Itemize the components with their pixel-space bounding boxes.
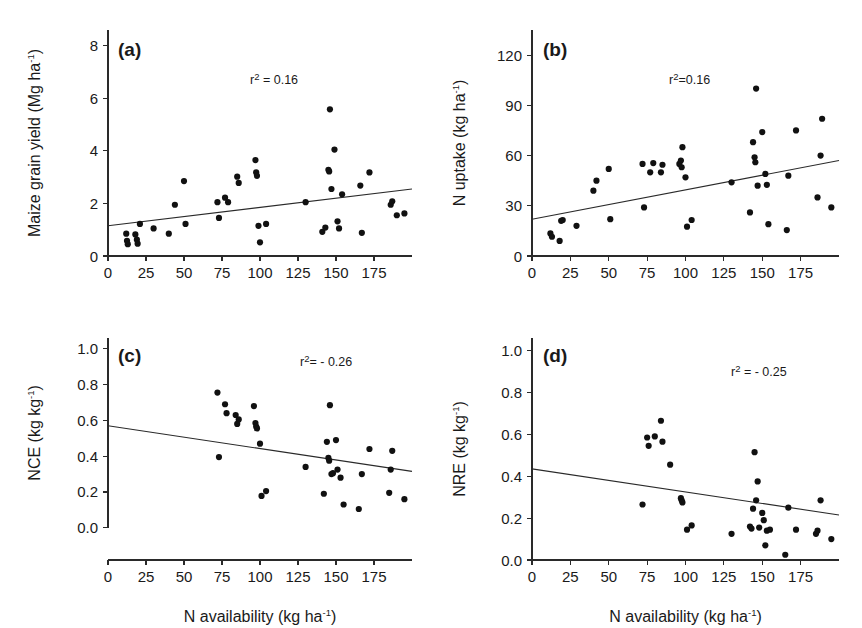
data-point [762,171,768,177]
x-tick-label: 125 [285,568,310,585]
data-point [254,425,260,431]
data-point [334,466,340,472]
data-point [263,488,269,494]
data-point [258,493,264,499]
data-point [606,166,612,172]
data-point [255,223,261,229]
x-tick-label: 100 [247,264,272,281]
data-point [750,139,756,145]
x-axis-title-close: ) [756,608,761,625]
data-point [341,501,347,507]
figure-container: 024680255075100125150175(a)r2 = 0.16Maiz… [0,0,862,628]
r2-value: =0.16 [678,73,710,87]
panel-label: (d) [543,345,567,366]
data-point [257,239,263,245]
data-point [388,466,394,472]
data-point [689,522,695,528]
regression-line [532,469,839,515]
data-point [181,178,187,184]
y-tick-label: 0.6 [77,412,98,429]
data-point [216,215,222,221]
y-axis-title-main: Maize grain yield (Mg ha [26,63,43,237]
x-tick-label: 0 [528,568,536,585]
data-point [652,433,658,439]
panel-b-plot-area: 03060901200255075100125150175(b)r2=0.16N… [450,30,839,281]
y-tick-label: 0.6 [501,426,522,443]
y-axis-title-close: ) [451,401,468,406]
data-point [753,497,759,503]
x-axis-title-main: N availability (kg ha [609,608,748,625]
data-point [263,221,269,227]
data-point [366,169,372,175]
data-point [748,525,754,531]
data-point [254,173,260,179]
data-point [257,441,263,447]
y-tick-label: 0.4 [77,448,98,465]
data-point [684,224,690,230]
data-point [394,212,400,218]
data-point [123,231,129,237]
x-tick-label: 150 [323,264,348,281]
data-point [549,234,555,240]
data-point [137,221,143,227]
data-point [334,218,340,224]
x-tick-label: 50 [176,264,193,281]
data-point [125,241,131,247]
y-axis-title-close: ) [26,49,43,54]
data-point [132,231,138,237]
data-point [337,475,343,481]
data-point [389,198,395,204]
x-axis-title-exponent: -1 [322,607,330,618]
x-tick-label: 75 [639,264,656,281]
y-tick-label: 0 [90,248,98,265]
x-tick-label: 150 [323,568,348,585]
data-point [784,227,790,233]
data-point [785,173,791,179]
y-tick-label: 0.8 [77,376,98,393]
y-tick-label: 0.2 [77,483,98,500]
panel-a-svg: 024680255075100125150175(a)r2 = 0.16Maiz… [0,0,431,314]
data-point [747,209,753,215]
r2-value: = - 0.26 [309,355,352,369]
data-point [303,464,309,470]
data-point [322,225,328,231]
x-tick-label: 100 [673,568,698,585]
data-point [647,169,653,175]
data-point [728,179,734,185]
data-point [793,127,799,133]
y-axis-title-close: ) [26,385,43,390]
data-point [828,204,834,210]
data-point [389,448,395,454]
x-tick-label: 175 [361,568,386,585]
data-point [401,496,407,502]
data-point [817,497,823,503]
data-point [557,238,563,244]
x-tick-label: 175 [788,568,813,585]
r2-value: = - 0.25 [740,365,786,379]
data-point [759,510,765,516]
x-tick-label: 25 [138,264,155,281]
data-point [326,458,332,464]
data-point [659,439,665,445]
x-tick-label: 75 [214,568,231,585]
data-point [214,199,220,205]
data-point [644,434,650,440]
x-tick-label: 25 [562,264,579,281]
x-tick-label: 50 [176,568,193,585]
data-point [765,221,771,227]
data-point [650,160,656,166]
data-point [639,501,645,507]
r2-value: = 0.16 [259,73,298,87]
data-point [756,524,762,530]
data-point [639,161,645,167]
panel-label: (b) [543,39,567,60]
panel-d-plot-area: 0.00.20.40.60.81.00255075100125150175(d)… [450,338,839,625]
data-point [386,490,392,496]
y-tick-label: 0.4 [501,468,522,485]
x-tick-label: 125 [711,264,736,281]
data-point [759,129,765,135]
x-tick-label: 125 [285,264,310,281]
y-axis-title-main: NCE (kg kg [26,399,43,481]
data-point [356,506,362,512]
data-point [593,178,599,184]
